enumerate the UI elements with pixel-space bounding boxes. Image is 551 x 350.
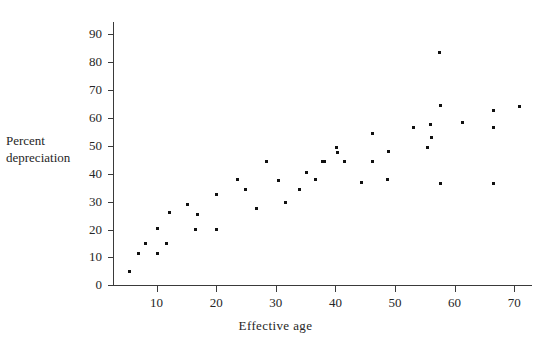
y-axis-title-line-2: depreciation xyxy=(6,149,68,166)
x-tick-50 xyxy=(395,286,396,292)
data-point xyxy=(165,242,168,245)
data-point xyxy=(461,121,464,124)
x-tick-label-50: 50 xyxy=(378,296,412,309)
data-point xyxy=(168,211,171,214)
data-point xyxy=(492,109,495,112)
data-point xyxy=(336,151,339,154)
plot-area xyxy=(114,22,532,285)
data-point xyxy=(137,252,140,255)
x-tick-label-70: 70 xyxy=(497,296,531,309)
data-point xyxy=(360,181,363,184)
data-point xyxy=(439,104,442,107)
data-point xyxy=(323,160,326,163)
data-point xyxy=(426,146,429,149)
data-point xyxy=(343,160,346,163)
data-point xyxy=(277,179,280,182)
data-point xyxy=(430,136,433,139)
x-tick-10 xyxy=(157,286,158,292)
y-tick-label-60: 60 xyxy=(72,111,102,124)
x-tick-30 xyxy=(276,286,277,292)
data-point xyxy=(156,227,159,230)
x-tick-40 xyxy=(335,286,336,292)
data-point xyxy=(244,188,247,191)
data-point xyxy=(305,171,308,174)
data-point xyxy=(371,132,374,135)
x-tick-60 xyxy=(455,286,456,292)
data-point xyxy=(298,188,301,191)
data-point xyxy=(314,178,317,181)
y-tick-label-40: 40 xyxy=(72,167,102,180)
y-tick-label-30: 30 xyxy=(72,195,102,208)
data-point xyxy=(186,203,189,206)
x-axis-title: Effective age xyxy=(0,318,551,333)
data-point xyxy=(215,228,218,231)
data-point xyxy=(194,228,197,231)
y-tick-0 xyxy=(108,285,114,286)
data-point xyxy=(128,270,131,273)
y-tick-label-20: 20 xyxy=(72,223,102,236)
data-point xyxy=(265,160,268,163)
data-point xyxy=(518,105,521,108)
data-point xyxy=(284,201,287,204)
data-point xyxy=(156,252,159,255)
data-point xyxy=(236,178,239,181)
x-tick-label-60: 60 xyxy=(438,296,472,309)
data-point xyxy=(386,178,389,181)
scatter-plot-figure: Percent depreciation Effective age 01020… xyxy=(0,0,551,350)
data-point xyxy=(429,123,432,126)
y-tick-label-70: 70 xyxy=(72,83,102,96)
x-axis-line xyxy=(113,285,532,286)
y-tick-label-0: 0 xyxy=(72,278,102,291)
data-point xyxy=(371,160,374,163)
data-point xyxy=(215,193,218,196)
y-tick-label-80: 80 xyxy=(72,55,102,68)
x-tick-label-10: 10 xyxy=(140,296,174,309)
data-point xyxy=(335,146,338,149)
data-point xyxy=(387,150,390,153)
x-tick-label-20: 20 xyxy=(199,296,233,309)
y-axis-title-line-1: Percent xyxy=(6,132,68,149)
x-tick-20 xyxy=(216,286,217,292)
data-point xyxy=(196,213,199,216)
data-point xyxy=(144,242,147,245)
y-tick-label-50: 50 xyxy=(72,139,102,152)
x-tick-70 xyxy=(514,286,515,292)
data-point xyxy=(412,126,415,129)
x-tick-label-40: 40 xyxy=(318,296,352,309)
data-point xyxy=(255,207,258,210)
x-tick-label-30: 30 xyxy=(259,296,293,309)
data-point xyxy=(492,182,495,185)
data-point xyxy=(438,51,441,54)
y-axis-title: Percent depreciation xyxy=(6,132,68,166)
y-tick-label-90: 90 xyxy=(72,27,102,40)
data-point xyxy=(492,126,495,129)
data-point xyxy=(439,182,442,185)
y-tick-label-10: 10 xyxy=(72,250,102,263)
